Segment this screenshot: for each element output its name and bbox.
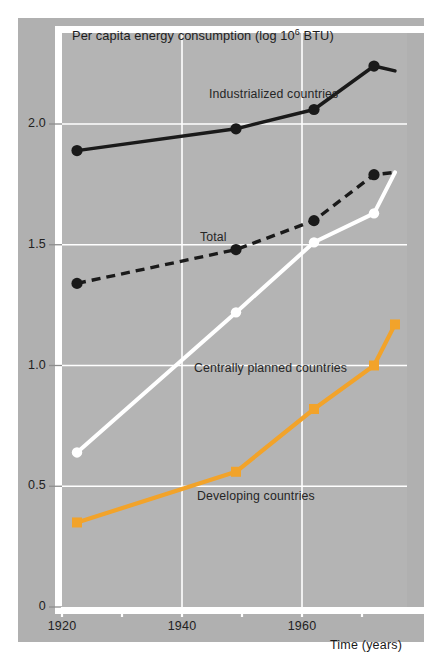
series-markers-group [71,60,400,527]
chart-figure: Per capita energy consumption (log 106 B… [0,0,433,660]
marker-developing-countries [369,361,379,371]
marker-centrally-planned-countries [231,307,241,317]
series-line-industrialized-countries [77,66,395,151]
chart-title: Per capita energy consumption (log 106 B… [72,27,334,43]
chart-title-main: Per capita energy consumption (log 10 [72,28,295,43]
chart-title-tail: BTU) [300,28,334,43]
marker-developing-countries [72,517,82,527]
series-label-developing-countries: Developing countries [197,489,315,503]
marker-total [308,215,319,226]
y-tick-label-1.0: 1.0 [12,358,46,372]
marker-industrialized-countries [308,104,319,115]
marker-developing-countries [231,467,241,477]
marker-developing-countries [390,319,400,329]
y-tick-label-0.5: 0.5 [12,478,46,492]
marker-centrally-planned-countries [369,208,379,218]
x-tick-label-1920: 1920 [36,619,88,633]
marker-centrally-planned-countries [309,237,319,247]
series-label-total: Total [200,230,227,244]
marker-total [368,169,379,180]
marker-industrialized-countries [71,145,82,156]
x-tick-label-1940: 1940 [156,619,208,633]
y-tick-label-2.0: 2.0 [12,116,46,130]
x-tick-label-1960: 1960 [276,619,328,633]
series-lines-group [77,66,395,523]
marker-industrialized-countries [368,60,379,71]
y-tick-label-1.5: 1.5 [12,237,46,251]
marker-developing-countries [309,404,319,414]
series-label-centrally-planned-countries: Centrally planned countries [194,361,347,375]
gridlines-group [62,33,407,607]
y-tick-label-0: 0 [12,599,46,613]
marker-total [230,244,241,255]
series-label-industrialized-countries: Industrialized countries [209,87,338,101]
marker-total [71,278,82,289]
x-axis-title: Time (years) [330,638,402,652]
marker-industrialized-countries [230,123,241,134]
marker-centrally-planned-countries [72,447,82,457]
